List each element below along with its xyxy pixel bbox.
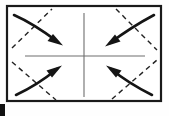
figure-container: [0, 0, 169, 116]
page-edge-mark: [0, 104, 5, 116]
paper-folding-diagram: [0, 0, 169, 116]
